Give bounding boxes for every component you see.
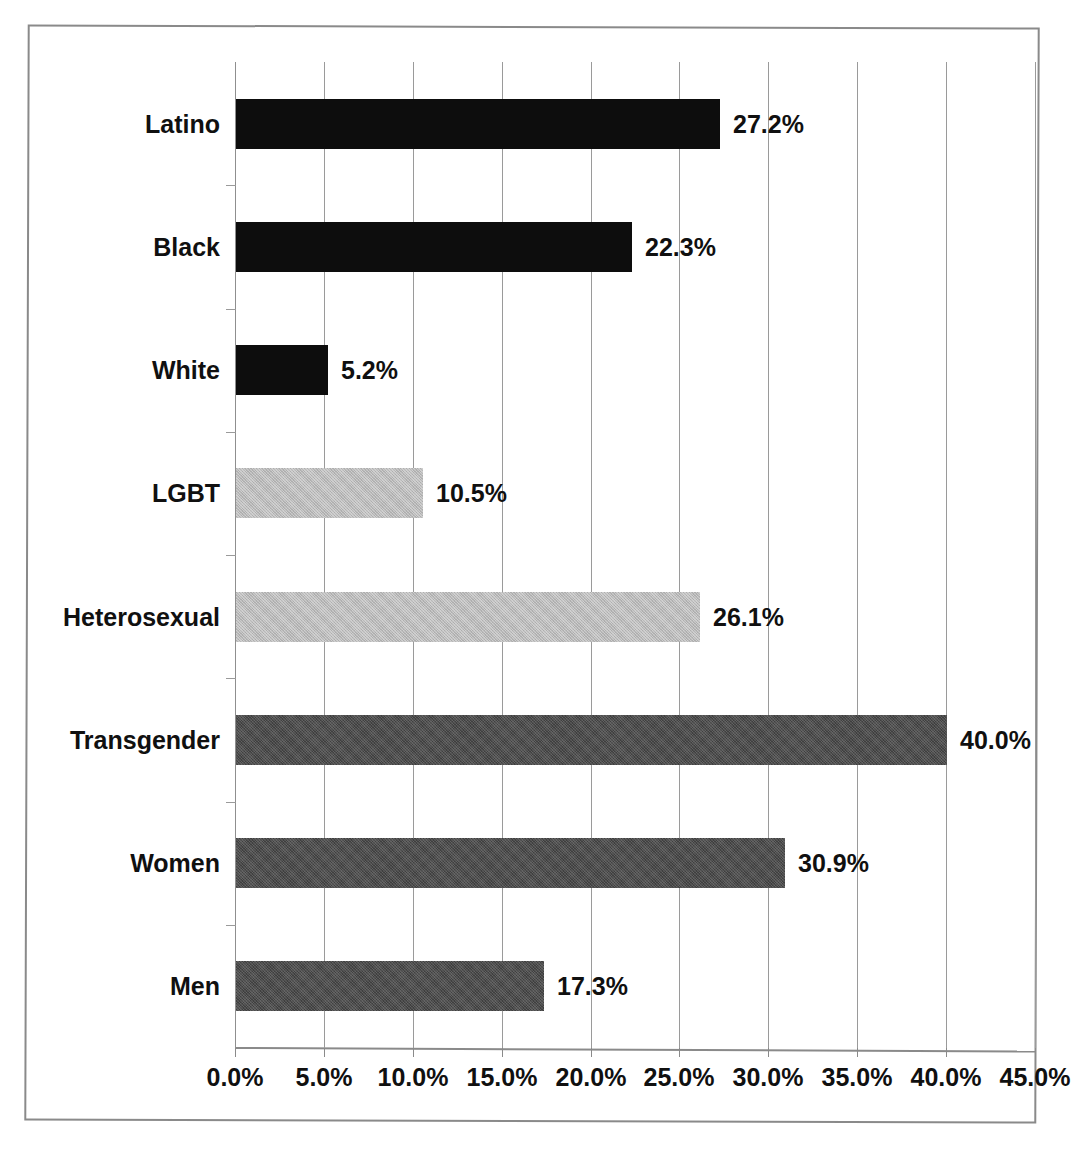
x-axis-tick-label: 45.0% [975,1063,1075,1092]
y-axis-tick [226,432,236,433]
x-gridline [946,62,947,1048]
x-axis-tick [413,1048,414,1057]
bar-value-label: 26.1% [713,592,784,642]
y-axis-category-label: Transgender [12,715,232,765]
bar-value-label: 40.0% [960,715,1031,765]
bar-value-label: 10.5% [436,468,507,518]
bar-row: Heterosexual26.1% [0,592,1066,642]
x-gridline [324,62,325,1048]
x-gridline [1035,62,1036,1048]
bar-row: LGBT10.5% [0,468,1066,518]
x-axis-tick [502,1048,503,1057]
x-axis-tick [857,1048,858,1057]
x-axis-tick [946,1048,947,1057]
y-axis-category-label: Men [12,961,232,1011]
bar-row: Men17.3% [0,961,1066,1011]
x-axis-tick [324,1048,325,1057]
y-axis-tick [226,555,236,556]
x-gridline [502,62,503,1048]
bar-men[interactable] [236,961,544,1011]
bar-row: Black22.3% [0,222,1066,272]
bar-value-label: 27.2% [733,99,804,149]
y-axis-category-label: White [12,345,232,395]
y-axis-tick [226,185,236,186]
x-axis-tick [768,1048,769,1057]
x-axis-tick [235,1048,236,1057]
x-gridline [857,62,858,1048]
y-axis-category-label: Black [12,222,232,272]
bar-black[interactable] [236,222,632,272]
bar-value-label: 17.3% [557,961,628,1011]
y-axis-tick [226,925,236,926]
bar-row: Transgender40.0% [0,715,1066,765]
bar-heterosexual[interactable] [236,592,700,642]
x-gridline [591,62,592,1048]
bar-white[interactable] [236,345,328,395]
y-axis-category-label: LGBT [12,468,232,518]
bar-row: Women30.9% [0,838,1066,888]
bar-row: Latino27.2% [0,99,1066,149]
y-axis-tick [226,678,236,679]
bar-lgbt[interactable] [236,468,423,518]
x-axis-tick [1035,1048,1036,1057]
bar-row: White5.2% [0,345,1066,395]
x-gridline [679,62,680,1048]
x-axis-baseline [235,1047,1035,1052]
y-axis-category-label: Latino [12,99,232,149]
x-gridline [768,62,769,1048]
bar-transgender[interactable] [236,715,947,765]
y-axis-category-label: Heterosexual [12,592,232,642]
y-axis-tick [226,802,236,803]
bar-latino[interactable] [236,99,720,149]
bar-value-label: 22.3% [645,222,716,272]
y-axis-category-label: Women [12,838,232,888]
x-gridline [413,62,414,1048]
bar-women[interactable] [236,838,785,888]
bar-value-label: 30.9% [798,838,869,888]
y-axis-tick [226,309,236,310]
x-axis-tick [679,1048,680,1057]
x-axis-tick [591,1048,592,1057]
bar-value-label: 5.2% [341,345,398,395]
